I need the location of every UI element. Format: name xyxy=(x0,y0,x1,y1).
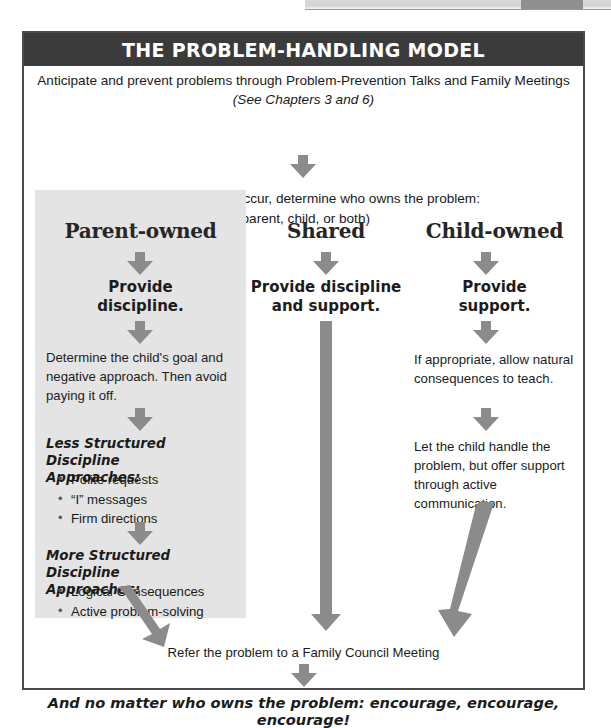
parent-step-1-text: Determine the child's goal and negative … xyxy=(46,348,232,405)
parent-bullets-1: Polite requests “I” messages Firm direct… xyxy=(46,470,248,529)
arrow-head xyxy=(313,261,339,275)
shared-action-line-1: Provide discipline xyxy=(246,278,406,297)
arrow-head xyxy=(127,261,153,275)
parent-action-line-2: discipline. xyxy=(35,297,246,316)
arrow-head xyxy=(473,261,499,275)
child-action-line-1: Provide xyxy=(406,278,583,297)
list-item: “I” messages xyxy=(58,490,248,510)
slanted-down-arrow-icon xyxy=(424,499,504,639)
column-heading-shared: Shared xyxy=(246,219,406,243)
column-heading-parent: Parent-owned xyxy=(35,219,246,243)
shared-action-text: Provide discipline and support. xyxy=(246,278,406,316)
arrow-head xyxy=(127,531,153,545)
down-arrow-icon xyxy=(290,155,316,178)
figure-title: THE PROBLEM-HANDLING MODEL xyxy=(122,39,485,61)
parent-subhead-2-line-1: More Structured Discipline xyxy=(46,547,244,581)
intro-block: Anticipate and prevent problems through … xyxy=(24,71,583,109)
family-council-text: Refer the problem to a Family Council Me… xyxy=(24,645,583,660)
arrow-head xyxy=(473,330,499,344)
child-action-text: Provide support. xyxy=(406,278,583,316)
parent-action-line-1: Provide xyxy=(35,278,246,297)
down-arrow-icon xyxy=(473,408,499,431)
down-arrow-icon xyxy=(291,664,317,687)
intro-line-2: (See Chapters 3 and 6) xyxy=(24,90,583,109)
page-edge-rule xyxy=(305,9,611,10)
arrow-head xyxy=(291,673,317,687)
problem-handling-model-figure: THE PROBLEM-HANDLING MODEL Anticipate an… xyxy=(22,31,585,690)
arrow-head xyxy=(127,330,153,344)
down-arrow-icon xyxy=(127,321,153,344)
child-action-line-2: support. xyxy=(406,297,583,316)
intro-line-1: Anticipate and prevent problems through … xyxy=(24,71,583,90)
shared-action-line-2: and support. xyxy=(246,297,406,316)
arrow-head xyxy=(290,164,316,178)
arrow-head xyxy=(127,417,153,431)
page-tab-artifact xyxy=(521,0,583,9)
diagonal-down-arrow-icon xyxy=(116,585,174,647)
column-heading-child: Child-owned xyxy=(406,219,583,243)
down-arrow-icon xyxy=(127,252,153,275)
encouragement-text: And no matter who owns the problem: enco… xyxy=(24,694,583,728)
down-arrow-icon xyxy=(473,252,499,275)
down-arrow-icon xyxy=(473,321,499,344)
arrow-shaft xyxy=(320,321,332,615)
column-parent-owned: Parent-owned xyxy=(35,219,246,243)
column-shared: Shared xyxy=(246,219,406,243)
parent-action-text: Provide discipline. xyxy=(35,278,246,316)
column-child-owned: Child-owned xyxy=(406,219,583,243)
child-step-1-text: If appropriate, allow natural consequenc… xyxy=(414,350,584,388)
parent-subhead-1-line-1: Less Structured Discipline xyxy=(46,435,241,469)
down-arrow-icon xyxy=(127,408,153,431)
long-down-arrow-icon xyxy=(311,321,341,631)
arrow-head xyxy=(311,614,341,631)
down-arrow-icon xyxy=(127,522,153,545)
list-item: Polite requests xyxy=(58,470,248,490)
arrow-head xyxy=(473,417,499,431)
figure-title-bar: THE PROBLEM-HANDLING MODEL xyxy=(24,33,583,66)
list-item: Firm directions xyxy=(58,509,248,529)
down-arrow-icon xyxy=(313,252,339,275)
